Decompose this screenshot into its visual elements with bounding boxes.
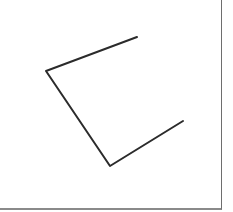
sketch-drawing [0, 0, 233, 212]
bracket-stroke [46, 37, 183, 166]
